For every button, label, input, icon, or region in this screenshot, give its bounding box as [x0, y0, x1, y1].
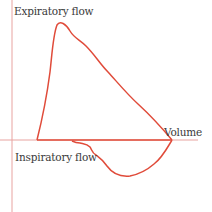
flow-volume-diagram: Expiratory flow Inspiratory flow Volume [0, 0, 212, 212]
expiratory-flow-label: Expiratory flow [14, 5, 93, 17]
flow-volume-svg [0, 0, 212, 212]
inspiratory-flow-label: Inspiratory flow [15, 151, 97, 163]
expiratory-curve [37, 23, 172, 140]
volume-label: Volume [164, 126, 202, 138]
